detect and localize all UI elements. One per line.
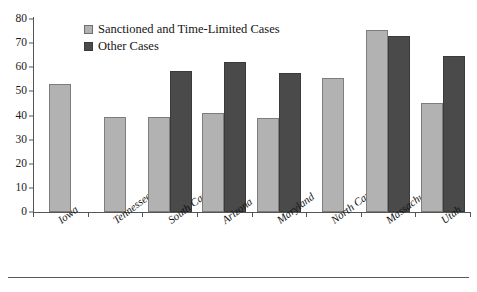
y-axis-tick-mark [29,163,33,164]
bar-sanctioned-and-time-limited-cases [366,30,388,212]
y-axis-tick-label: 50 [16,86,28,98]
x-axis-tick-mark [470,212,471,217]
y-axis-tick-label: 60 [16,62,28,74]
x-axis-tick-mark [415,212,416,217]
bar-other-cases [170,71,192,212]
y-axis-tick-label: 70 [16,37,28,49]
y-axis-tick-mark [29,91,33,92]
bar-other-cases [388,36,410,212]
legend-item-sanctioned-and-time-limited-cases: Sanctioned and Time-Limited Cases [84,22,280,37]
footer-divider [8,277,469,278]
bar-sanctioned-and-time-limited-cases [104,117,126,212]
bar-sanctioned-and-time-limited-cases [421,103,443,212]
x-axis-tick-mark [361,212,362,217]
y-axis-tick-mark [29,187,33,188]
x-axis-tick-mark [142,212,143,217]
y-axis-tick-label: 30 [16,134,28,146]
y-axis-tick-mark [29,139,33,140]
y-axis-tick-label: 40 [16,110,28,122]
bar-sanctioned-and-time-limited-cases [202,113,224,212]
legend-label: Sanctioned and Time-Limited Cases [98,23,280,36]
x-axis-tick-mark [252,212,253,217]
bar-sanctioned-and-time-limited-cases [257,118,279,212]
y-axis-tick-mark [29,43,33,44]
legend-item-other-cases: Other Cases [84,39,280,54]
bar-other-cases [224,62,246,212]
x-axis-tick-mark [33,212,34,217]
y-axis-tick-label: 10 [16,182,28,194]
bar-sanctioned-and-time-limited-cases [49,84,71,212]
bar-other-cases [443,56,465,212]
chart-legend: Sanctioned and Time-Limited Cases Other … [84,22,280,56]
x-axis-tick-mark [306,212,307,217]
x-axis-tick-mark [88,212,89,217]
bar-sanctioned-and-time-limited-cases [148,117,170,212]
x-axis-tick-mark [197,212,198,217]
y-axis-tick-mark [29,19,33,20]
bar-chart-figure: 01020304050607080IowaTennesseeSouth Caro… [0,0,477,292]
legend-swatch-icon-light [84,25,93,34]
y-axis-tick-mark [29,67,33,68]
bar-other-cases [279,73,301,212]
y-axis-tick-label: 0 [21,206,27,218]
y-axis-tick-label: 80 [16,13,28,25]
y-axis-tick-label: 20 [16,158,28,170]
bar-sanctioned-and-time-limited-cases [322,78,344,212]
legend-label: Other Cases [98,40,159,53]
legend-swatch-icon-dark [84,42,93,51]
y-axis-tick-mark [29,115,33,116]
